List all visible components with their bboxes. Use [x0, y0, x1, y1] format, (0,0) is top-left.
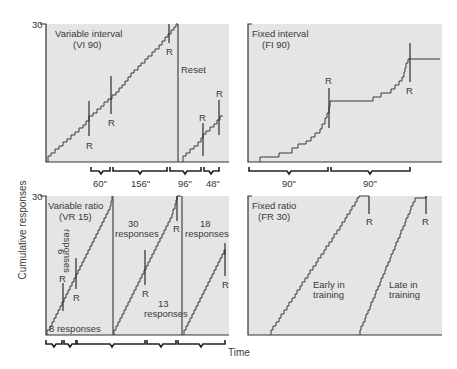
- late-training-label-2: training: [389, 289, 420, 300]
- reinforcer-label: R: [73, 292, 80, 303]
- interval-brace: [204, 167, 219, 174]
- reinforcer-label: R: [406, 85, 413, 96]
- reinforcer-label: R: [325, 75, 332, 86]
- annotation-30-responses: responses: [115, 228, 159, 239]
- reinforcer-label: R: [108, 117, 115, 128]
- panel-title: Variable ratio: [48, 200, 103, 211]
- annotation-18-responses: responses: [185, 228, 229, 239]
- ratio-brace: [64, 340, 76, 347]
- reinforcer-label: R: [142, 288, 149, 299]
- reinforcer-label: R: [216, 88, 223, 99]
- ratio-brace: [77, 340, 145, 347]
- panel-variable-ratio: 30 Variable ratio (VR 15) R R R R R 6 re…: [32, 191, 229, 347]
- interval-label: 96": [178, 178, 192, 189]
- interval-label: 60": [93, 178, 107, 189]
- panel-subtitle: (FI 90): [262, 39, 290, 50]
- ratio-brace: [178, 340, 225, 347]
- panel-subtitle: (VR 15): [59, 211, 92, 222]
- panel-subtitle: (FR 30): [258, 211, 290, 222]
- interval-label: 156": [131, 178, 150, 189]
- x-axis-label: Time: [228, 347, 250, 358]
- annotation-8-responses: 8 responses: [49, 323, 101, 334]
- annotation-6-responses: responses: [62, 229, 73, 273]
- interval-label: 90": [363, 178, 377, 189]
- interval-brace: [249, 167, 328, 174]
- panel-fixed-ratio: Fixed ratio (FR 30) R R Early in trainin…: [248, 196, 442, 335]
- interval-brace: [170, 167, 201, 174]
- panel-title: Fixed interval: [252, 28, 309, 39]
- reset-label: Reset: [181, 64, 206, 75]
- reinforcer-label: R: [199, 112, 206, 123]
- early-training-label-2: training: [313, 289, 344, 300]
- interval-label: 90": [282, 178, 296, 189]
- interval-brace: [91, 167, 110, 174]
- reinforcer-label: R: [59, 273, 66, 284]
- interval-brace: [331, 167, 410, 174]
- reinforcer-label: R: [422, 216, 429, 227]
- panel-fixed-interval: Fixed interval (FI 90) R R 90" 90": [248, 24, 442, 189]
- ratio-brace: [46, 340, 62, 347]
- reinforcer-label: R: [166, 46, 173, 57]
- panel-variable-interval: 30 Variable interval (VI 90) Reset R R R…: [32, 19, 229, 189]
- interval-label: 48": [206, 178, 220, 189]
- ratio-brace: [147, 340, 176, 347]
- reinforcer-label: R: [173, 223, 180, 234]
- interval-brace: [113, 167, 167, 174]
- panel-title: Fixed ratio: [252, 200, 296, 211]
- reinforcer-label: R: [222, 279, 229, 290]
- annotation-13-responses: responses: [144, 308, 188, 319]
- reinforcer-label: R: [366, 216, 373, 227]
- panel-subtitle: (VI 90): [73, 39, 102, 50]
- panel-title: Variable interval: [55, 28, 122, 39]
- y-axis-label: Cumulative responses: [17, 181, 28, 280]
- reinforcer-label: R: [86, 140, 93, 151]
